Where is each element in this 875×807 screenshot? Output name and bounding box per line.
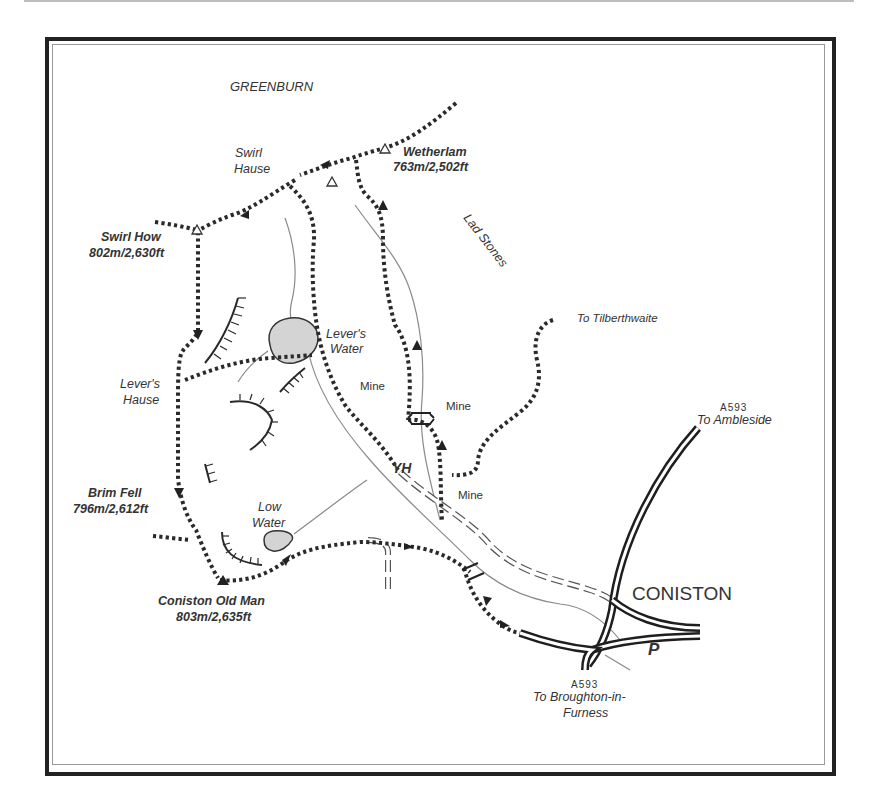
stream-levers-hause <box>238 351 268 382</box>
label-swirl-hause-2: Hause <box>234 162 270 176</box>
label-low-water-2: Water <box>252 516 286 530</box>
stream-levers-beck-upper <box>285 218 296 328</box>
label-greenburn: GREENBURN <box>230 79 314 94</box>
label-wetherlam: Wetherlam <box>403 145 467 159</box>
lane-south <box>605 655 630 670</box>
label-to-tilberthwaite: To Tilberthwaite <box>577 312 658 324</box>
label-to-broughton-2: Furness <box>563 706 608 720</box>
trig-point-icon <box>327 177 337 186</box>
stream-low-water <box>294 480 367 534</box>
label-to-broughton-1: To Broughton-in- <box>533 690 626 704</box>
route-brim-fell-west <box>153 536 190 540</box>
route-map: GREENBURN Swirl Hause Wetherlam 763m/2,5… <box>0 0 875 807</box>
route-prison-band <box>178 232 218 578</box>
low-water-tarn <box>264 531 293 551</box>
label-levers-hause-2: Hause <box>123 393 159 407</box>
label-mine-1: Mine <box>360 380 385 392</box>
road-coniston-east <box>612 600 700 628</box>
label-coniston: CONISTON <box>632 583 732 604</box>
label-levers-water-1: Lever's <box>326 327 366 341</box>
label-parking: P <box>648 640 660 659</box>
crag-low-water <box>222 532 262 565</box>
label-youth-hostel: YH <box>392 460 412 476</box>
road-a593-south <box>520 633 592 670</box>
arrow-icon <box>483 596 492 606</box>
label-a593-south: A593 <box>571 679 598 690</box>
arrow-icon <box>378 200 388 210</box>
arrow-icon <box>404 543 414 550</box>
direction-arrows <box>174 160 510 628</box>
route-tilberthwaite <box>452 320 553 475</box>
label-a593-north: A593 <box>720 402 747 413</box>
label-levers-hause-1: Lever's <box>120 377 160 391</box>
route-swirl-hause <box>199 180 295 230</box>
track-quarry <box>368 540 388 592</box>
label-swirl-how: Swirl How <box>101 230 162 244</box>
crag-3 <box>230 401 272 450</box>
walking-routes <box>153 103 553 633</box>
label-levers-water-2: Water <box>330 342 364 356</box>
streams <box>238 205 620 640</box>
label-coniston-old-man: Coniston Old Man <box>158 594 265 608</box>
crag-1 <box>205 298 238 363</box>
label-mine-2: Mine <box>446 400 471 412</box>
label-coniston-old-man-height: 803m/2,635ft <box>176 610 252 624</box>
label-brim-fell: Brim Fell <box>88 486 142 500</box>
label-brim-fell-height: 796m/2,612ft <box>73 502 149 516</box>
trig-point-icon <box>380 144 390 153</box>
roads <box>520 428 700 670</box>
tracks <box>368 472 616 604</box>
route-swirl-how-west <box>155 222 197 230</box>
label-lad-stones: Lad Stones <box>461 211 511 269</box>
label-wetherlam-height: 763m/2,502ft <box>393 160 469 174</box>
label-to-ambleside: To Ambleside <box>697 413 772 427</box>
label-mine-3: Mine <box>458 489 483 501</box>
arrow-icon <box>500 620 510 628</box>
summit-markers <box>192 144 390 585</box>
label-swirl-hause-1: Swirl <box>235 146 263 160</box>
label-low-water-1: Low <box>258 500 282 514</box>
label-swirl-how-height: 802m/2,630ft <box>89 246 165 260</box>
